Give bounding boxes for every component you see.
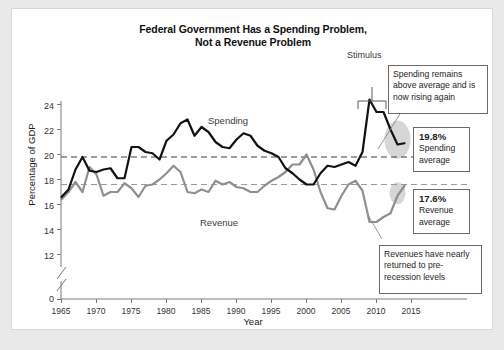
stimulus-label: Stimulus bbox=[347, 50, 382, 60]
revenue-average-caption-line2: average bbox=[419, 217, 450, 227]
x-tick-marks bbox=[62, 299, 412, 303]
y-tick-marks bbox=[57, 105, 61, 300]
revenue-average-caption-line1: Revenue bbox=[419, 205, 453, 215]
chart-plot-area: Percentage of GDP Year 24 22 20 18 16 14… bbox=[12, 9, 494, 331]
revenue-highlight-ellipse bbox=[390, 182, 406, 204]
spending-average-box: 19.8% Spending average bbox=[413, 127, 470, 172]
chart-card: Federal Government Has a Spending Proble… bbox=[11, 8, 493, 330]
axis-break-mark-upper bbox=[57, 267, 66, 279]
revenue-average-box: 17.6% Revenue average bbox=[413, 189, 470, 234]
series-label-revenue: Revenue bbox=[200, 217, 238, 228]
spending-average-caption-line2: average bbox=[419, 155, 450, 165]
revenue-callout-box: Revenues have nearly returned to pre-rec… bbox=[379, 245, 482, 294]
spending-callout-box: Spending remains above average and is no… bbox=[388, 65, 488, 114]
spending-average-value: 19.8% bbox=[419, 131, 446, 142]
series-label-spending: Spending bbox=[208, 115, 248, 126]
revenue-average-value: 17.6% bbox=[419, 193, 446, 204]
spending-average-caption-line1: Spending bbox=[419, 143, 455, 153]
